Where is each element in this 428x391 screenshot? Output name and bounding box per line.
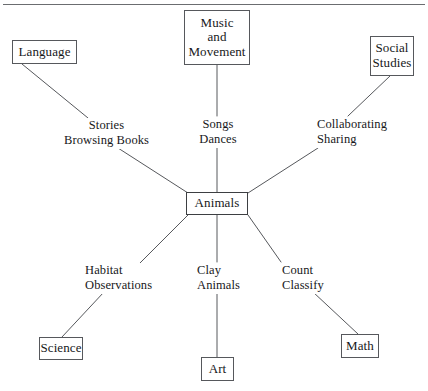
edge-label-art-line-2: Animals (197, 278, 253, 293)
node-animals-label: Animals (195, 196, 240, 211)
edge-label-math-line-2: Classify (282, 278, 336, 293)
edge-label-science: Habitat Observations (84, 263, 164, 294)
node-music-line-3: Movement (188, 45, 245, 60)
node-music-line-2: and (207, 30, 226, 45)
edge-label-math: Count Classify (281, 263, 337, 294)
node-math-label: Math (346, 339, 374, 354)
edge-label-art: Clay Animals (196, 263, 254, 294)
concept-web-figure: Language Music and Movement Social Studi… (0, 0, 428, 391)
edge-label-art-line-1: Clay (197, 263, 253, 278)
edge-label-language-line-2: Browsing Books (58, 133, 155, 148)
node-animals-center[interactable]: Animals (186, 192, 248, 215)
edge-label-math-line-1: Count (282, 263, 336, 278)
edge-label-language-line-1: Stories (58, 118, 155, 133)
edge-label-social-line-2: Sharing (317, 132, 397, 147)
edge-label-science-line-1: Habitat (85, 263, 163, 278)
node-language[interactable]: Language (12, 40, 77, 64)
node-social-studies-line-1: Social (375, 41, 408, 56)
node-science-label: Science (40, 341, 81, 356)
node-social-studies[interactable]: Social Studies (370, 36, 414, 76)
connector-social-lower (248, 148, 318, 193)
edge-label-social-line-1: Collaborating (317, 117, 397, 132)
header-rule (3, 4, 425, 5)
node-art[interactable]: Art (201, 357, 234, 381)
node-math[interactable]: Math (341, 334, 379, 358)
edge-label-music-line-2: Dances (191, 132, 245, 147)
node-science[interactable]: Science (39, 337, 83, 360)
connector-math-upper (248, 215, 281, 262)
node-music-and-movement[interactable]: Music and Movement (184, 10, 250, 65)
connector-math-lower (313, 292, 358, 334)
node-art-label: Art (209, 362, 227, 377)
connector-science-lower (62, 292, 104, 337)
connector-science-upper (140, 215, 188, 263)
node-social-studies-line-2: Studies (373, 56, 412, 71)
connector-social-upper (348, 76, 390, 116)
edge-label-music: Songs Dances (190, 117, 246, 148)
node-language-label: Language (18, 45, 70, 60)
connector-language-upper (22, 64, 88, 118)
connector-language-lower (118, 148, 188, 193)
node-music-line-1: Music (201, 16, 234, 31)
edge-label-social-studies: Collaborating Sharing (316, 117, 398, 148)
edge-label-science-line-2: Observations (85, 278, 163, 293)
edge-label-music-line-1: Songs (191, 117, 245, 132)
edge-label-language: Stories Browsing Books (57, 118, 156, 149)
